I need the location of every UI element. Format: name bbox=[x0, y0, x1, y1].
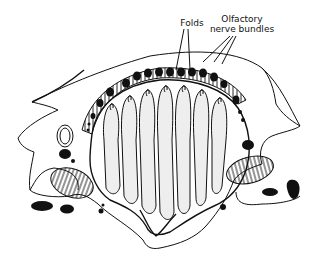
left-blob-1 bbox=[59, 149, 71, 159]
right-blob-1 bbox=[242, 140, 254, 150]
diagram-canvas: Folds Olfactory nerve bundles bbox=[0, 0, 316, 262]
leader-lines bbox=[176, 29, 236, 70]
skin-fold bbox=[32, 70, 84, 102]
olfactory-folds bbox=[103, 86, 226, 220]
right-blob-3 bbox=[287, 180, 300, 199]
left-blob-3 bbox=[60, 205, 74, 214]
left-blob-2 bbox=[31, 201, 53, 211]
right-hatched-oval bbox=[223, 151, 276, 189]
right-blob-2 bbox=[262, 188, 278, 196]
cross-section-drawing bbox=[0, 0, 316, 262]
